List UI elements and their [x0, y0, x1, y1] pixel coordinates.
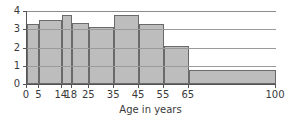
histogram-bar	[72, 23, 89, 84]
gridline-y-3	[27, 29, 276, 30]
histogram-bar	[89, 27, 114, 84]
x-tick-label: 55	[157, 89, 170, 100]
x-tick-mark	[188, 85, 189, 88]
x-tick-label: 65	[181, 89, 194, 100]
x-tick-label: 5	[35, 89, 41, 100]
x-axis-title: Age in years	[26, 104, 275, 116]
x-tick-mark	[61, 85, 62, 88]
y-tick-label: 0	[0, 79, 20, 89]
x-tick-label: 18	[64, 89, 77, 100]
x-tick-label: 0	[23, 89, 29, 100]
x-tick-label: 100	[265, 89, 284, 100]
x-tick-mark	[26, 85, 27, 88]
x-tick-mark	[113, 85, 114, 88]
x-tick-mark	[38, 85, 39, 88]
gridline-y-1	[27, 66, 276, 67]
x-tick-mark	[275, 85, 276, 88]
histogram-bar	[27, 24, 39, 84]
x-tick-mark	[163, 85, 164, 88]
histogram-chart: 01234 0514182535455565100 Age in years	[0, 0, 303, 124]
y-tick-label: 4	[0, 6, 20, 16]
x-tick-label: 35	[107, 89, 120, 100]
x-tick-label: 45	[132, 89, 145, 100]
y-tick-label: 1	[0, 61, 20, 71]
y-tick-label: 2	[0, 43, 20, 53]
x-axis: 0514182535455565100	[26, 85, 276, 103]
x-tick-mark	[138, 85, 139, 88]
x-tick-mark	[71, 85, 72, 88]
plot-area	[26, 11, 276, 85]
y-axis: 01234	[0, 11, 26, 85]
x-tick-mark	[88, 85, 89, 88]
gridline-y-4	[27, 11, 276, 12]
histogram-bar	[62, 15, 72, 84]
x-tick-label: 25	[82, 89, 95, 100]
histogram-bar	[114, 15, 139, 84]
y-tick-label: 3	[0, 24, 20, 34]
histogram-bar	[189, 70, 276, 84]
histogram-bar	[139, 24, 164, 84]
gridline-y-2	[27, 48, 276, 49]
